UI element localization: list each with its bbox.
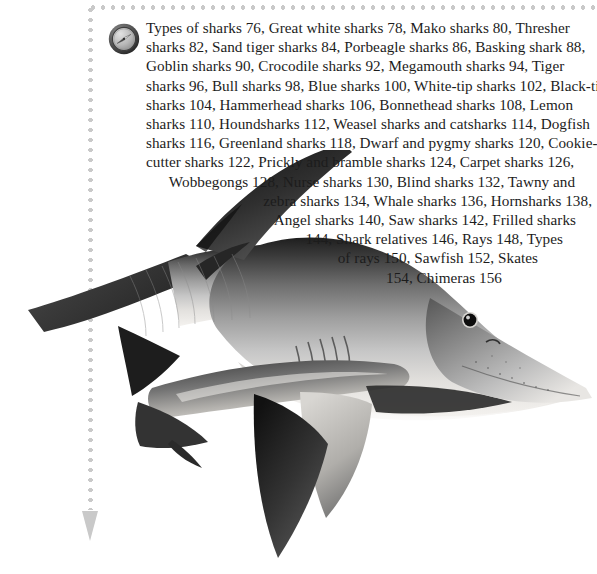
shark-mouth-line [462,366,580,396]
shark-rear-fin [366,386,512,414]
toc-line: sharks 96, Bull sharks 98, Blue sharks 1… [146,76,597,95]
down-arrow-icon [82,511,98,541]
top-dotted-rule [88,5,597,10]
shark-pelvic-fin [135,402,208,448]
shark-snout [426,298,592,403]
shark-eye-ring [462,312,478,328]
toc-line: Goblin sharks 90, Crocodile sharks 92, M… [146,56,597,75]
table-of-contents: Types of sharks 76, Great white sharks 7… [146,18,597,287]
compass-icon [108,23,140,55]
shark-lower-caudal-fin [118,326,180,396]
shark-eye [464,314,477,327]
toc-line: Wobbegongs 128, Nurse sharks 130, Blind … [146,172,597,191]
toc-line: Angel sharks 140, Saw sharks 142, Frille… [146,210,597,229]
toc-line: 144, Shark relatives 146, Rays 148, Type… [146,229,597,248]
shark-pectoral-fin-upper [148,360,409,418]
toc-line: 154, Chimeras 156 [146,268,597,287]
shark-eye-glint [466,316,470,320]
shark-anal-fin [300,392,372,518]
shark-gill-slits [296,336,350,384]
toc-line: sharks 82, Sand tiger sharks 84, Porbeag… [146,37,597,56]
shark-nostril [486,340,500,344]
toc-line: zebra sharks 134, Whale sharks 136, Horn… [146,191,597,210]
toc-line: Types of sharks 76, Great white sharks 7… [146,18,597,37]
shark-ampullae-speckles [475,355,549,391]
shark-pectoral-fin-highlight [176,372,388,402]
shark-pelvic-fin-tip [168,440,202,468]
toc-line: sharks 116, Greenland sharks 118, Dwarf … [146,133,597,152]
toc-line: of rays 150, Sawfish 152, Skates [146,248,597,267]
left-dotted-rule [88,5,93,510]
toc-line: sharks 104, Hammerhead sharks 106, Bonne… [146,95,597,114]
toc-line: cutter sharks 122, Prickly and bramble s… [146,152,597,171]
shark-pectoral-fin-lower [254,394,328,558]
shark-belly-highlight [238,362,566,420]
book-page: Types of sharks 76, Great white sharks 7… [0,0,597,574]
toc-line: sharks 110, Houndsharks 112, Weasel shar… [146,114,597,133]
